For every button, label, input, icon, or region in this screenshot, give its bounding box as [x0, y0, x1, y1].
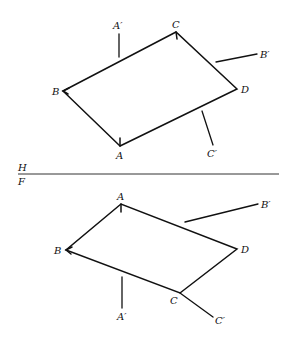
top-b-arrow-icon	[63, 88, 69, 94]
front-label-a-prime: A′	[116, 311, 127, 322]
front-quadrilateral	[66, 204, 237, 293]
top-label-a-prime: A′	[112, 20, 123, 31]
top-label-b-prime: B′	[259, 49, 270, 60]
top-label-a: A	[115, 150, 123, 161]
front-view: A B′ B D C A′ C′	[53, 191, 271, 326]
fold-label-f: F	[17, 176, 26, 187]
front-label-c-prime: C′	[215, 315, 226, 326]
front-label-d: D	[240, 244, 249, 255]
top-label-c-prime: C′	[207, 148, 218, 159]
top-b-prime-ray	[216, 54, 257, 62]
front-label-a: A	[116, 191, 124, 202]
top-c-prime-ray	[202, 111, 213, 145]
orthographic-projection-diagram: A′ C B′ B D A C′ H F A B′ B D C A′ C′	[0, 0, 298, 343]
top-label-b: B	[51, 86, 59, 97]
top-label-d: D	[240, 84, 249, 95]
front-label-c: C	[170, 295, 178, 306]
front-label-b-prime: B′	[260, 199, 271, 210]
front-label-b: B	[53, 245, 61, 256]
top-label-c: C	[172, 19, 180, 30]
fold-label-h: H	[17, 162, 27, 173]
front-c-prime-ray	[180, 293, 213, 317]
top-view: A′ C B′ B D A C′	[51, 19, 270, 161]
fold-line: H F	[17, 162, 279, 187]
front-b-prime-ray	[185, 204, 258, 222]
top-quadrilateral	[63, 32, 237, 146]
top-c-tick	[176, 32, 177, 39]
